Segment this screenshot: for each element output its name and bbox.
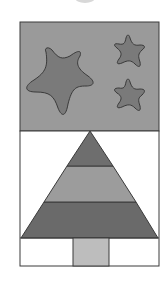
quilt-illustration xyxy=(0,0,168,284)
tree-bottom-band xyxy=(21,202,158,238)
tree-trunk xyxy=(73,238,109,266)
partial-circle xyxy=(75,0,95,3)
